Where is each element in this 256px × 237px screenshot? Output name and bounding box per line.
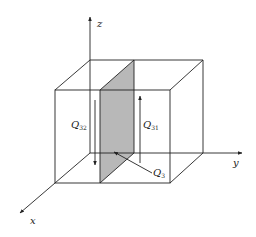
box-edge — [55, 60, 90, 90]
box-edge — [170, 60, 203, 90]
q32-label: Q32 — [71, 120, 87, 131]
shaded-plane — [100, 60, 134, 183]
y-axis-label: y — [233, 158, 239, 168]
box-edge — [170, 153, 203, 183]
x-axis-label: x — [30, 216, 36, 226]
z-axis-label: z — [97, 19, 102, 29]
q3-label: Q3 — [153, 168, 165, 179]
q31-label: Q31 — [143, 120, 159, 131]
box-diagram — [0, 0, 256, 237]
